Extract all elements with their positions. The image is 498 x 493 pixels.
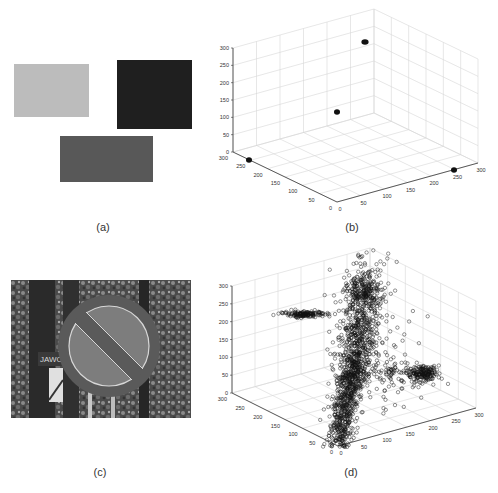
svg-text:0: 0 (329, 205, 332, 211)
scatter-3d-plot-d: 0005050501001001001501501502002002002502… (0, 240, 498, 465)
cluster-point (334, 109, 340, 115)
svg-text:100: 100 (288, 431, 297, 437)
svg-text:50: 50 (360, 200, 366, 206)
svg-text:50: 50 (222, 372, 228, 378)
svg-text:100: 100 (288, 188, 297, 194)
caption-d: (d) (344, 466, 357, 478)
svg-text:100: 100 (220, 114, 229, 120)
svg-text:250: 250 (220, 62, 229, 68)
svg-text:0: 0 (339, 450, 342, 456)
svg-text:50: 50 (309, 440, 315, 446)
svg-text:300: 300 (218, 396, 227, 402)
svg-text:100: 100 (219, 354, 228, 360)
svg-text:50: 50 (309, 197, 315, 203)
svg-text:150: 150 (220, 97, 229, 103)
svg-text:50: 50 (361, 444, 367, 450)
cluster-point (451, 167, 457, 173)
svg-text:150: 150 (405, 431, 414, 437)
svg-text:250: 250 (235, 405, 244, 411)
svg-text:200: 200 (220, 80, 229, 86)
svg-text:150: 150 (271, 423, 280, 429)
svg-text:150: 150 (406, 187, 415, 193)
tick-labels: 0005050501001001001501501502002002002502… (219, 45, 486, 212)
svg-text:300: 300 (474, 412, 483, 418)
svg-text:250: 250 (453, 174, 462, 180)
svg-text:250: 250 (236, 163, 245, 169)
svg-text:200: 200 (219, 319, 228, 325)
svg-text:300: 300 (220, 45, 229, 51)
svg-text:100: 100 (382, 193, 391, 199)
svg-text:250: 250 (451, 418, 460, 424)
svg-text:300: 300 (476, 167, 485, 173)
left-horizontal-cluster (272, 308, 337, 320)
svg-text:150: 150 (271, 180, 280, 186)
svg-text:200: 200 (428, 425, 437, 431)
svg-text:150: 150 (219, 337, 228, 343)
svg-text:200: 200 (253, 414, 262, 420)
svg-text:200: 200 (253, 172, 262, 178)
svg-text:250: 250 (219, 301, 228, 307)
caption-b: (b) (345, 221, 358, 233)
svg-text:50: 50 (223, 132, 229, 138)
cluster-point (246, 157, 252, 163)
svg-text:0: 0 (338, 206, 341, 212)
svg-text:300: 300 (219, 155, 228, 161)
svg-text:100: 100 (382, 437, 391, 443)
axes (233, 48, 478, 202)
scatter-3d-plot-b: 0005050501001001001501501502002002002502… (0, 0, 498, 250)
svg-text:0: 0 (330, 449, 333, 455)
caption-c: (c) (94, 466, 107, 478)
cluster-point (361, 39, 368, 45)
svg-text:300: 300 (219, 283, 228, 289)
svg-text:200: 200 (429, 180, 438, 186)
